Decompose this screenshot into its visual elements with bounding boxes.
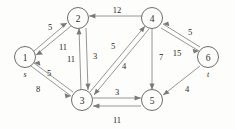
node-1-label: 1 [23, 53, 28, 63]
edge-5-3 [93, 104, 141, 109]
edge-weight-2-3: 3 [93, 51, 97, 61]
edge-weights-group: 5 11 8 5 11 3 12 5 4 7 15 5 4 3 11 [36, 5, 192, 125]
graph-canvas: 1 s 2 3 4 5 6 t [0, 0, 235, 129]
node-4[interactable]: 4 [142, 8, 163, 29]
node-1-terminal-label: s [23, 70, 26, 79]
edge-weight-4-2: 12 [113, 5, 122, 15]
edge-3-4 [90, 26, 145, 92]
edge-weight-6-4: 5 [188, 27, 192, 37]
edge-weight-4-3: 4 [122, 61, 127, 71]
edge-weight-1-2: 5 [48, 22, 52, 32]
edge-weight-3-2: 11 [67, 54, 75, 64]
node-1[interactable]: 1 s [15, 47, 36, 80]
node-5-label: 5 [150, 96, 155, 106]
node-3-label: 3 [80, 96, 85, 106]
edge-weight-6-5: 4 [185, 84, 190, 94]
edge-weight-1-3: 8 [36, 84, 40, 94]
edge-weight-4-5: 7 [159, 52, 163, 62]
node-2-label: 2 [76, 14, 81, 24]
node-4-label: 4 [150, 14, 155, 24]
edge-3-2 [77, 28, 82, 91]
edge-6-5 [163, 66, 200, 95]
edge-weight-3-5: 3 [115, 87, 119, 97]
edge-weight-3-1: 5 [47, 68, 51, 78]
edge-2-3 [86, 28, 91, 90]
edge-6-4 [163, 21, 200, 47]
node-5[interactable]: 5 [142, 90, 163, 111]
node-6-label: 6 [206, 53, 211, 63]
edge-weight-5-3: 11 [113, 115, 121, 125]
graph-diagram: 1 s 2 3 4 5 6 t [0, 0, 235, 129]
edge-weight-3-4: 5 [111, 41, 115, 51]
node-6[interactable]: 6 t [198, 47, 219, 80]
node-6-terminal-label: t [207, 70, 210, 79]
edge-4-5 [150, 28, 155, 90]
edge-weight-2-1: 11 [59, 42, 67, 52]
node-3[interactable]: 3 [72, 90, 93, 111]
edge-weight-4-6: 15 [173, 48, 182, 58]
node-2[interactable]: 2 [68, 8, 89, 29]
